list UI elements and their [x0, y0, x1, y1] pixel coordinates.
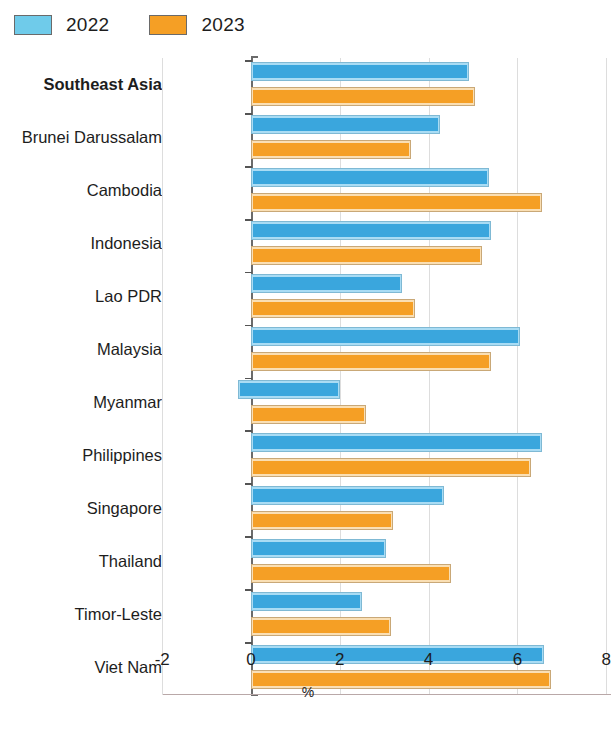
chart-legend: 20222023: [0, 0, 611, 50]
gridline: [606, 58, 607, 695]
bar-outline: [251, 221, 491, 240]
category-label: Thailand: [0, 551, 162, 570]
bar-outline: [251, 62, 469, 81]
bar-outline: [251, 299, 415, 318]
bar-fill: [253, 436, 540, 449]
axis-cap: [251, 56, 258, 58]
bar-fill: [253, 277, 400, 290]
category-label: Myanmar: [0, 392, 162, 411]
bar-outline: [251, 246, 482, 265]
bar-outline: [251, 327, 520, 346]
category-label: Indonesia: [0, 234, 162, 253]
bar-outline: [251, 486, 444, 505]
category-axis-labels: Southeast AsiaBrunei DarussalamCambodiaI…: [0, 50, 162, 695]
bar-outline: [251, 140, 411, 159]
gridline: [429, 58, 430, 695]
gridline: [162, 58, 163, 695]
legend-label: 2022: [66, 14, 109, 36]
legend-swatch-icon: [149, 15, 187, 35]
category-label: Brunei Darussalam: [0, 128, 162, 147]
category-label: Timor-Leste: [0, 604, 162, 623]
x-axis-title: %: [163, 684, 453, 700]
bar-outline: [251, 433, 542, 452]
bar-outline: [251, 458, 531, 477]
bar-fill: [253, 461, 529, 474]
bar-outline: [238, 380, 340, 399]
chart-body: Southeast AsiaBrunei DarussalamCambodiaI…: [0, 50, 611, 752]
bar-fill: [253, 249, 480, 262]
bar-fill: [253, 567, 449, 580]
legend-2023[interactable]: 2023: [149, 14, 244, 36]
bar-fill: [253, 143, 409, 156]
bar-outline: [251, 87, 475, 106]
x-tick-label: 2: [335, 650, 344, 670]
x-axis-ticks: -202468: [163, 650, 611, 680]
bar-outline: [251, 193, 542, 212]
bar-outline: [251, 115, 440, 134]
category-label: Viet Nam: [0, 657, 162, 676]
bar-fill: [253, 355, 489, 368]
bar-fill: [253, 514, 391, 527]
category-label: Cambodia: [0, 181, 162, 200]
bar-fill: [253, 65, 467, 78]
category-label: Southeast Asia: [0, 75, 162, 94]
bar-outline: [251, 592, 362, 611]
bar-fill: [253, 118, 438, 131]
bar-outline: [251, 539, 386, 558]
bar-fill: [253, 302, 413, 315]
bar-fill: [253, 224, 489, 237]
bar-fill: [253, 408, 364, 421]
bar-outline: [251, 564, 451, 583]
bar-outline: [251, 352, 491, 371]
category-label: Malaysia: [0, 340, 162, 359]
bar-fill: [253, 330, 518, 343]
bar-fill: [253, 196, 540, 209]
bar-fill: [253, 489, 442, 502]
bar-fill: [253, 595, 360, 608]
x-tick-label: 4: [424, 650, 433, 670]
x-tick-label: 6: [513, 650, 522, 670]
gridline: [517, 58, 518, 695]
category-label: Philippines: [0, 445, 162, 464]
category-label: Lao PDR: [0, 287, 162, 306]
bar-fill: [240, 383, 338, 396]
x-tick-label: -2: [155, 650, 170, 670]
bar-fill: [253, 171, 487, 184]
x-tick-label: 8: [601, 650, 610, 670]
legend-2022[interactable]: 2022: [14, 14, 109, 36]
category-label: Singapore: [0, 498, 162, 517]
plot-area: [163, 50, 611, 695]
x-tick-label: 0: [246, 650, 255, 670]
bar-outline: [251, 405, 366, 424]
bar-outline: [251, 168, 489, 187]
bar-fill: [253, 620, 389, 633]
bar-outline: [251, 617, 391, 636]
bar-fill: [253, 90, 473, 103]
plot-inner: [163, 50, 611, 695]
bar-fill: [253, 542, 384, 555]
legend-swatch-icon: [14, 15, 52, 35]
bar-outline: [251, 511, 393, 530]
legend-label: 2023: [201, 14, 244, 36]
bar-outline: [251, 274, 402, 293]
